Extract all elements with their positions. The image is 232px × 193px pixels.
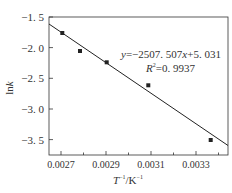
plot-area bbox=[49, 17, 228, 155]
data-point bbox=[146, 83, 150, 87]
data-point bbox=[209, 138, 213, 142]
data-point bbox=[105, 60, 109, 64]
x-tick-label: 0.0029 bbox=[92, 159, 120, 170]
y-tick-label: −2. 0 bbox=[21, 42, 44, 54]
x-tick-label: 0.0031 bbox=[137, 159, 165, 170]
x-axis-label: T−1/K−1 bbox=[113, 174, 143, 186]
x-tick-label: 0.0027 bbox=[47, 159, 75, 170]
y-axis: −1. 5 −2. 0 −2. 5 −3. 0 −3. 5 bbox=[21, 11, 53, 146]
y-tick-label: −2. 5 bbox=[21, 72, 44, 84]
fit-equation: y=−2507. 507x+5. 031 bbox=[120, 48, 221, 60]
x-tick-label: 0.0033 bbox=[182, 159, 210, 170]
y-axis-label: lnk bbox=[3, 80, 15, 95]
y-tick-label: −1. 5 bbox=[21, 11, 44, 23]
fit-line bbox=[49, 24, 228, 146]
y-tick-label: −3. 5 bbox=[21, 134, 44, 146]
r-squared: R2=0. 9937 bbox=[145, 62, 195, 74]
data-point bbox=[60, 31, 64, 35]
x-axis: 0.0027 0.0029 0.0031 0.0033 bbox=[47, 151, 218, 170]
chart: −1. 5 −2. 0 −2. 5 −3. 0 −3. 5 0.0027 0.0… bbox=[0, 0, 232, 193]
data-point bbox=[78, 49, 82, 53]
y-tick-label: −3. 0 bbox=[21, 103, 44, 115]
